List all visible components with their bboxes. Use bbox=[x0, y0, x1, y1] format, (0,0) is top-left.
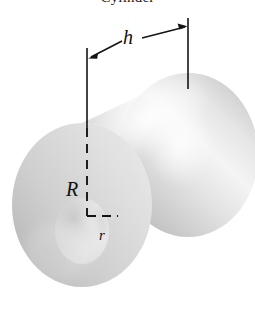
front-face-soft-light bbox=[24, 222, 92, 282]
cylinder-front-face bbox=[12, 123, 152, 287]
h-arrow-right-shaft bbox=[142, 27, 185, 38]
far-bore-glow bbox=[146, 105, 214, 185]
h-arrow-left-shaft bbox=[91, 41, 122, 57]
cylinder-figure: Cylinder bbox=[0, 0, 255, 314]
cylinder-drawing bbox=[0, 0, 255, 314]
h-arrow-left-head bbox=[88, 54, 98, 59]
